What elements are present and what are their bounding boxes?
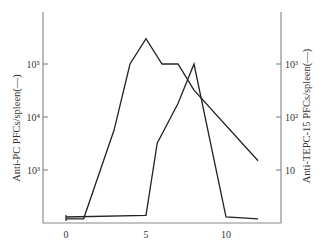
left-axis-title: Anti-PC PFCs/spleen(—) <box>11 74 23 182</box>
right-tick-label: 10 <box>285 165 295 176</box>
right-y-ticks: 1010²10³ <box>276 59 298 176</box>
x-tick-label: 0 <box>64 229 69 240</box>
x-tick-label: 10 <box>221 229 231 240</box>
left-tick-label: 10⁵ <box>27 59 41 70</box>
chart: 0510 10³10⁴10⁵ 1010²10³ Anti-PC PFCs/spl… <box>0 0 327 245</box>
left-y-ticks: 10³10⁴10⁵ <box>27 59 49 176</box>
anti-pc-line <box>66 39 258 219</box>
left-tick-label: 10⁴ <box>27 112 41 123</box>
x-tick-label: 5 <box>144 229 149 240</box>
left-tick-label: 10³ <box>27 165 40 176</box>
right-tick-label: 10³ <box>285 59 298 70</box>
right-tick-label: 10² <box>285 112 298 123</box>
anti-tepc15-line <box>66 64 258 219</box>
x-tick-labels: 0510 <box>64 229 232 240</box>
series-lines <box>66 39 258 221</box>
right-axis-title: Anti-TEPC-15 PFCs/spleen(—) <box>301 48 313 183</box>
